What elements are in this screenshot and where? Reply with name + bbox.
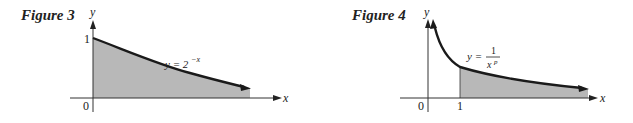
equation-lhs: y = — [466, 50, 482, 62]
x-tick-label: 1 — [457, 99, 463, 113]
x-axis-arrow-icon — [273, 95, 282, 101]
origin-label: 0 — [418, 99, 424, 113]
equation-denominator: x p — [486, 58, 498, 70]
y-intercept-label: 1 — [84, 32, 90, 46]
figure-4-plot: y x 0 1 y = 1 x p — [316, 0, 633, 123]
curve-arrow-up-icon — [430, 19, 437, 29]
origin-label: 0 — [83, 99, 89, 113]
figure-3: Figure 3 y x 0 1 y = 2 −x — [0, 0, 316, 123]
x-axis-arrow-icon — [589, 95, 598, 101]
equation-numerator: 1 — [491, 45, 496, 56]
curve — [435, 28, 582, 88]
x-axis-label: x — [282, 91, 289, 105]
y-axis-label: y — [89, 5, 96, 19]
x-axis-label: x — [599, 91, 606, 105]
figure-4: Figure 4 y x 0 1 y = 1 x p — [316, 0, 633, 123]
equation-label: y = 2 −x — [164, 55, 200, 70]
y-axis-arrow-icon — [425, 19, 431, 28]
figure-3-plot: y x 0 1 y = 2 −x — [0, 0, 316, 123]
y-axis-label: y — [423, 5, 430, 19]
y-axis-arrow-icon — [90, 20, 96, 29]
